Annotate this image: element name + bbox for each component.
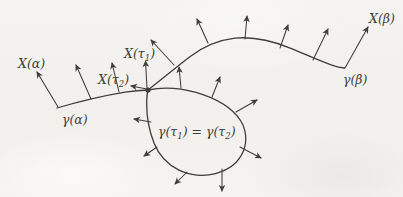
vector-arrow (175, 172, 187, 184)
vector-arrow (245, 16, 247, 39)
self-intersection-dot (145, 87, 150, 92)
vector-arrow (280, 25, 288, 48)
label-x-tau2: X(τ2) (97, 72, 129, 89)
vector-field-diagram: X(α) X(τ2) X(τ1) X(β) γ(α) γ(β) γ(τ1) = … (0, 0, 403, 197)
x-beta-arrow (345, 27, 368, 68)
vector-arrow (212, 77, 220, 97)
x-alpha-arrow (37, 72, 58, 107)
figure-canvas: X(α) X(τ2) X(τ1) X(β) γ(α) γ(β) γ(τ1) = … (0, 0, 403, 197)
label-gamma-alpha: γ(α) (62, 112, 88, 127)
vector-arrow (179, 67, 181, 88)
label-x-tau1: X(τ1) (123, 46, 155, 63)
label-x-alpha: X(α) (17, 56, 45, 71)
vector-arrow (76, 65, 91, 99)
curve-top-segment (148, 38, 345, 90)
vector-arrow (144, 147, 157, 156)
label-gamma-beta: γ(β) (343, 72, 368, 87)
vector-arrow (236, 100, 257, 112)
x-tau1-arrow (146, 61, 148, 88)
vector-arrows (37, 16, 368, 191)
label-gamma-tau1-equals-gamma-tau2: γ(τ1) = γ(τ2) (158, 124, 236, 141)
label-x-beta: X(β) (368, 11, 395, 26)
vector-arrow (197, 19, 208, 43)
x-tau2-arrow (131, 86, 147, 89)
curve-left-segment (57, 90, 148, 108)
vector-arrow (313, 29, 328, 60)
